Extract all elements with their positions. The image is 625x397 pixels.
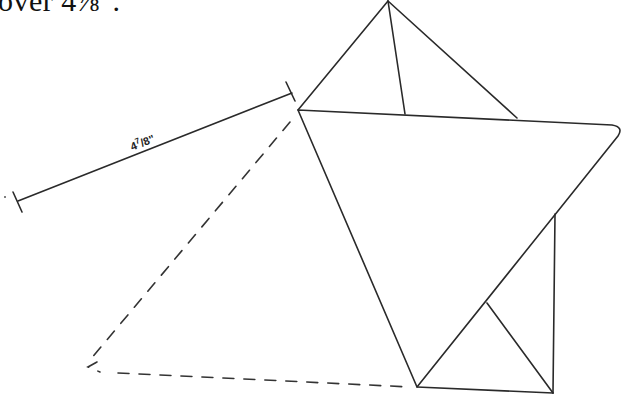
top-triangle <box>298 1 517 118</box>
stray-dot <box>4 196 6 198</box>
large-triangle <box>298 110 620 387</box>
dimension-line <box>13 82 295 212</box>
dashed-fold-lines <box>88 122 410 387</box>
folding-diagram <box>0 0 625 397</box>
